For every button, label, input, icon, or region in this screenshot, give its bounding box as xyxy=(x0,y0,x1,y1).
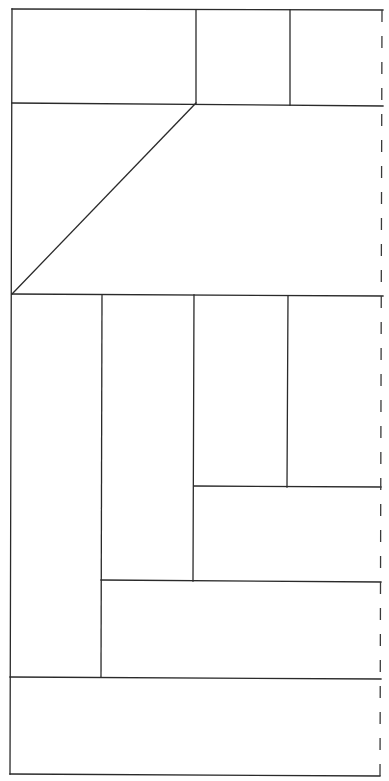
diagram-background xyxy=(0,0,389,781)
panel-layout-diagram xyxy=(0,0,389,781)
